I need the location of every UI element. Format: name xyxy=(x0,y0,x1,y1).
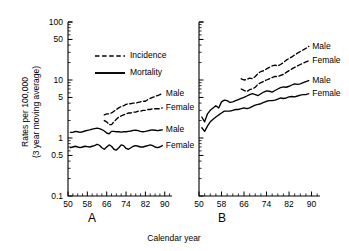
series-end-label: Male xyxy=(312,75,331,85)
legend-incidence-label: Incidence xyxy=(130,50,167,60)
y-tick-label: 10 xyxy=(54,75,64,85)
series-end-label: Female xyxy=(312,55,341,65)
x-tick-label: 66 xyxy=(239,199,249,209)
y-tick-label: 50 xyxy=(54,34,64,44)
panel-b-series-incidence-male xyxy=(241,46,309,80)
series-end-label: Male xyxy=(166,124,185,134)
y-tick-label: 1 xyxy=(58,133,63,143)
x-tick-label: 74 xyxy=(121,199,131,209)
series-end-label: Male xyxy=(166,88,185,98)
y-axis-title-line1: Rates per 100,000 xyxy=(20,77,30,147)
x-tick-label: 82 xyxy=(141,199,151,209)
series-end-label: Female xyxy=(312,88,341,98)
panel-b-axes xyxy=(199,22,320,196)
x-tick-label: 74 xyxy=(262,199,272,209)
x-tick-label: 50 xyxy=(194,199,204,209)
incidence-mortality-chart: 1005010510.50.1505866748290MaleFemaleMal… xyxy=(0,0,349,251)
y-tick-label: 5 xyxy=(58,92,63,102)
panel-label-a: A xyxy=(88,211,96,225)
panel-b-series-mortality-female xyxy=(202,94,309,132)
panel-label-b: B xyxy=(218,211,226,225)
panel-a-series-mortality-male xyxy=(70,128,162,134)
y-tick-label: 100 xyxy=(49,17,63,27)
legend-mortality-label: Mortality xyxy=(130,67,163,77)
series-end-label: Female xyxy=(166,102,195,112)
x-axis-title: Calendar year xyxy=(147,233,201,243)
x-tick-label: 50 xyxy=(63,199,73,209)
y-tick-label: 0.1 xyxy=(51,191,63,201)
x-tick-label: 90 xyxy=(160,199,170,209)
x-tick-label: 58 xyxy=(83,199,93,209)
panel-a-series-incidence-female xyxy=(104,108,162,125)
panel-a-series-incidence-male xyxy=(104,93,162,115)
series-end-label: Male xyxy=(312,41,331,51)
y-axis-title-line2: (3 year moving average) xyxy=(31,66,41,158)
y-tick-label: 0.5 xyxy=(51,150,63,160)
series-end-label: Female xyxy=(166,140,195,150)
x-tick-label: 66 xyxy=(102,199,112,209)
figure-container: 1005010510.50.1505866748290MaleFemaleMal… xyxy=(0,0,349,251)
panel-a-series-mortality-female xyxy=(70,144,162,150)
x-tick-label: 58 xyxy=(217,199,227,209)
x-tick-label: 90 xyxy=(307,199,317,209)
x-tick-label: 82 xyxy=(284,199,294,209)
